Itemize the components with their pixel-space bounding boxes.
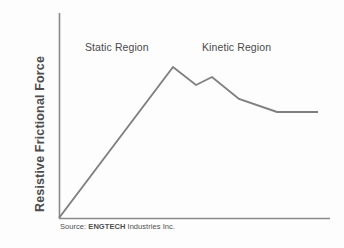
source-suffix: Industries Inc. xyxy=(128,222,175,231)
annotation-static-region: Static Region xyxy=(85,41,149,53)
chart-svg xyxy=(0,0,344,248)
friction-curve-line xyxy=(59,67,318,218)
friction-curve-figure: Resistive Frictional Force Static Region… xyxy=(0,0,344,248)
source-prefix: Source: xyxy=(60,222,86,231)
source-organization: ENGTECH xyxy=(88,222,125,231)
annotation-kinetic-region: Kinetic Region xyxy=(202,41,271,53)
source-credit: Source: ENGTECH Industries Inc. xyxy=(60,222,175,231)
y-axis-label: Resistive Frictional Force xyxy=(30,12,50,212)
chart-canvas: Resistive Frictional Force Static Region… xyxy=(0,0,344,248)
